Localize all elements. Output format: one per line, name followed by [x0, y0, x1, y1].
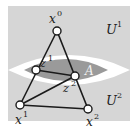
label-x1: x 1	[15, 110, 28, 127]
svg-text:2: 2	[94, 112, 99, 121]
svg-text:1: 1	[23, 110, 28, 119]
simplex-diagram: x 0 U 1 z 1 A z 2 U 2 x 1 x 2	[0, 0, 137, 129]
node-x1	[16, 101, 24, 109]
node-x2	[84, 105, 92, 113]
svg-text:1: 1	[48, 54, 53, 63]
svg-text:x: x	[49, 12, 56, 26]
svg-text:0: 0	[57, 9, 62, 18]
svg-text:x: x	[86, 115, 93, 129]
node-x0	[53, 27, 61, 35]
svg-text:2: 2	[117, 91, 122, 100]
svg-text:z: z	[39, 57, 46, 70]
svg-text:2: 2	[71, 79, 76, 88]
svg-text:1: 1	[117, 20, 122, 29]
svg-text:A: A	[84, 64, 94, 78]
svg-text:x: x	[15, 113, 22, 127]
label-x2: x 2	[86, 112, 99, 129]
node-z1	[32, 66, 40, 74]
label-a: A	[84, 64, 94, 78]
svg-text:z: z	[62, 82, 69, 95]
